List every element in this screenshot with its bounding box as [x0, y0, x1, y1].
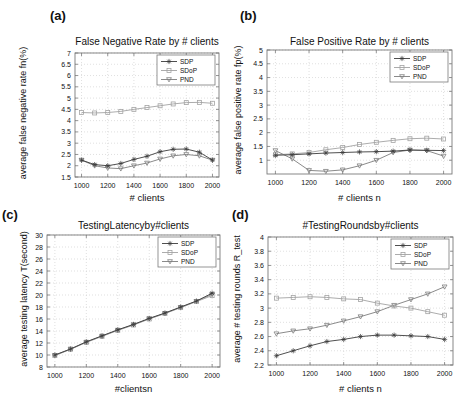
- x-tick-label: 2000: [205, 182, 221, 189]
- y-tick-label: 20: [35, 292, 43, 299]
- series-SDP-marker: [358, 334, 363, 339]
- y-tick-label: 22: [35, 280, 43, 287]
- legend-label: SDoP: [414, 251, 431, 258]
- series-SDP-marker: [307, 343, 312, 348]
- plot-area-a: 1000120014001600180020001.522.533.544.55…: [0, 0, 230, 207]
- y-tick-label: 6.5: [61, 61, 71, 68]
- series-SDP-marker: [392, 333, 397, 338]
- y-tick-label: 1.5: [61, 174, 71, 181]
- panel-b: (b) False Positive Rate by # clients ave…: [230, 0, 461, 207]
- series-PND-marker: [441, 154, 446, 158]
- y-tick-label: 30: [35, 232, 43, 239]
- x-tick-label: 1800: [403, 370, 419, 377]
- legend-label: SDP: [180, 58, 193, 65]
- x-axis-label-d: # clients n: [268, 383, 453, 394]
- y-tick-label: 3.4: [254, 276, 264, 283]
- y-tick-label: 10: [35, 352, 43, 359]
- x-tick-label: 1400: [336, 370, 352, 377]
- panel-d: (d) #TestingRoundsby#clients average # t…: [230, 207, 461, 413]
- y-tick-label: 3: [67, 140, 71, 147]
- y-tick-label: 12: [35, 340, 43, 347]
- x-tick-label: 2000: [204, 372, 220, 379]
- series-SDP-marker: [324, 339, 329, 344]
- plot-area-b: 10001200140016001800200011.522.533.544.5…: [230, 0, 461, 207]
- series-SDP-marker: [157, 149, 162, 154]
- x-tick-label: 1800: [173, 372, 189, 379]
- series-SDP-marker: [118, 161, 123, 166]
- series-SDoP-line: [276, 297, 444, 315]
- y-tick-label: 4: [67, 117, 71, 124]
- series-SDP-marker: [274, 353, 279, 358]
- x-tick-label: 1600: [152, 182, 168, 189]
- legend-label: PND: [181, 258, 195, 265]
- legend-label: SDP: [181, 240, 194, 247]
- y-tick-label: 3: [260, 305, 264, 312]
- y-tick-label: 5: [259, 47, 263, 54]
- y-tick-label: 1.5: [253, 143, 263, 150]
- x-tick-label: 1800: [178, 182, 194, 189]
- y-tick-label: 5: [67, 95, 71, 102]
- y-tick-label: 4: [259, 74, 263, 81]
- series-SDP-marker: [442, 337, 447, 342]
- panel-c: (c) TestingLatencyby#clients average tes…: [0, 207, 230, 413]
- y-tick-label: 3.5: [253, 88, 263, 95]
- y-tick-label: 4.5: [61, 106, 71, 113]
- series-SDP-marker: [408, 333, 413, 338]
- legend-label: SDP: [414, 242, 427, 249]
- x-tick-label: 1000: [47, 372, 63, 379]
- legend-label: SDP: [413, 55, 426, 62]
- x-tick-label: 1600: [370, 370, 386, 377]
- x-tick-label: 2000: [437, 370, 453, 377]
- x-tick-label: 1800: [402, 179, 418, 186]
- y-tick-label: 2: [67, 162, 71, 169]
- y-tick-label: 7: [67, 50, 71, 57]
- panel-a: (a) False Negative Rate by # clients ave…: [0, 0, 230, 207]
- x-tick-label: 1200: [301, 179, 317, 186]
- y-tick-label: 14: [35, 328, 43, 335]
- y-tick-label: 5.5: [61, 83, 71, 90]
- legend-label: SDoP: [180, 67, 197, 74]
- x-tick-label: 1000: [268, 179, 284, 186]
- y-tick-label: 2.2: [254, 362, 264, 369]
- x-tick-label: 1400: [335, 179, 351, 186]
- legend-label: SDoP: [181, 249, 198, 256]
- series-SDP-marker: [131, 157, 136, 162]
- y-tick-label: 8: [39, 364, 43, 371]
- series-SDP-marker: [341, 337, 346, 342]
- x-tick-label: 1400: [110, 372, 126, 379]
- x-tick-label: 1400: [126, 182, 142, 189]
- y-tick-label: 2: [259, 129, 263, 136]
- series-SDP-marker: [340, 150, 345, 155]
- x-tick-label: 1200: [100, 182, 116, 189]
- y-tick-label: 24: [35, 268, 43, 275]
- series-SDP-marker: [171, 147, 176, 152]
- y-tick-label: 26: [35, 256, 43, 263]
- y-tick-label: 3.5: [61, 128, 71, 135]
- x-tick-label: 1200: [79, 372, 95, 379]
- y-tick-label: 16: [35, 316, 43, 323]
- y-tick-label: 2.4: [254, 347, 264, 354]
- series-SDP-marker: [357, 149, 362, 154]
- y-tick-label: 3.6: [254, 262, 264, 269]
- y-tick-label: 6: [67, 72, 71, 79]
- y-tick-label: 2.6: [254, 333, 264, 340]
- series-SDP-marker: [441, 148, 446, 153]
- y-tick-label: 1: [259, 157, 263, 164]
- series-SDP-marker: [184, 146, 189, 151]
- y-tick-label: 3.8: [254, 248, 264, 255]
- series-SDP-marker: [291, 348, 296, 353]
- x-axis-label-a: # clients: [75, 192, 219, 203]
- y-tick-label: 4.5: [253, 60, 263, 67]
- x-axis-label-c: #clientsn: [47, 383, 220, 394]
- y-tick-label: 2.5: [253, 115, 263, 122]
- x-tick-label: 1000: [269, 370, 285, 377]
- y-tick-label: 28: [35, 244, 43, 251]
- x-tick-label: 1000: [74, 182, 90, 189]
- series-SDP-marker: [375, 333, 380, 338]
- series-PND-marker: [274, 332, 279, 336]
- legend-label: PND: [414, 260, 428, 267]
- series-SDP-marker: [425, 334, 430, 339]
- figure-page: (a) False Negative Rate by # clients ave…: [0, 0, 461, 413]
- x-tick-label: 1600: [141, 372, 157, 379]
- y-tick-label: 3: [259, 102, 263, 109]
